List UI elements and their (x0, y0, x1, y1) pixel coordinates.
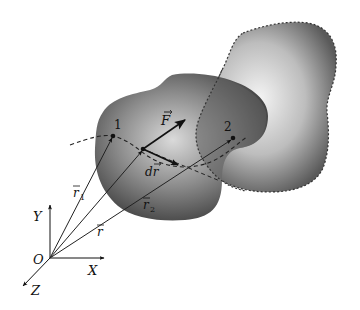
svg-text:F: F (160, 113, 171, 128)
r-label: r (97, 225, 104, 239)
svg-text:r: r (97, 225, 104, 239)
point-r-dot (141, 147, 146, 152)
point-2-label: 2 (224, 120, 232, 134)
svg-text:1: 1 (80, 193, 85, 202)
y-axis-label: Y (33, 209, 43, 224)
z-axis-label: Z (30, 283, 41, 298)
r1-label: r 1 (73, 186, 85, 202)
svg-text:2: 2 (150, 205, 155, 214)
point-2-dot (231, 136, 236, 141)
work-diagram: 1 2 F dr r 1 r r 2 O X Y Z (0, 0, 360, 310)
x-axis-label: X (87, 263, 98, 278)
point-1-dot (111, 134, 116, 139)
point-1-label: 1 (114, 118, 122, 132)
svg-text:r: r (73, 186, 80, 200)
svg-text:dr: dr (145, 165, 160, 179)
origin-label: O (33, 252, 44, 267)
